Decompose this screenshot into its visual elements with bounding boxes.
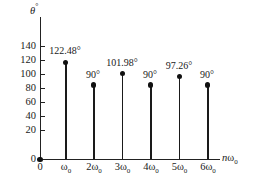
data-point-4 — [148, 82, 153, 87]
y-axis-title: θ° — [30, 2, 38, 16]
y-axis-title-degree: ° — [35, 2, 38, 11]
stem-4 — [150, 85, 152, 159]
stem-1 — [65, 62, 67, 158]
x-tick-label-5-sub: 0 — [184, 167, 188, 175]
y-tick-80 — [40, 88, 45, 89]
y-tick-40 — [40, 116, 45, 117]
x-tick-label-4-main: 4ω — [143, 161, 155, 172]
y-tick-label-40: 40 — [12, 111, 36, 122]
x-tick-label-5-main: 5ω — [172, 161, 184, 172]
data-label-1: 122.48° — [41, 46, 89, 56]
x-tick-label-0: 0 — [30, 161, 50, 172]
y-tick-60 — [40, 102, 45, 103]
data-label-3: 101.98° — [98, 58, 146, 68]
x-axis-title: nω0 — [222, 152, 238, 166]
x-tick-label-5: 5ω0 — [167, 161, 193, 177]
data-point-6 — [205, 82, 210, 87]
data-label-2: 90° — [75, 70, 111, 80]
y-tick-label-140: 140 — [12, 41, 36, 52]
stem-2 — [93, 85, 95, 159]
y-tick-label-120: 120 — [12, 55, 36, 66]
x-tick-label-2-sub: 0 — [98, 167, 102, 175]
x-tick-label-2: 2ω0 — [81, 161, 107, 177]
x-tick-label-3: 3ω0 — [110, 161, 136, 177]
data-point-3 — [120, 71, 125, 76]
x-tick-label-3-sub: 0 — [127, 167, 131, 175]
x-tick-label-3-main: 3ω — [115, 161, 127, 172]
y-tick-label-60: 60 — [12, 97, 36, 108]
data-label-6: 90° — [189, 70, 225, 80]
x-tick-label-4-sub: 0 — [155, 167, 159, 175]
data-label-4: 90° — [132, 70, 168, 80]
data-point-2 — [91, 82, 96, 87]
x-tick-label-6-main: 6ω — [200, 161, 212, 172]
x-tick-label-0-main: 0 — [37, 161, 42, 172]
data-point-1 — [63, 60, 68, 65]
stem-5 — [179, 76, 181, 158]
y-tick-100 — [40, 74, 45, 75]
y-tick-label-20: 20 — [12, 125, 36, 136]
y-tick-label-80: 80 — [12, 83, 36, 94]
x-tick-label-2-main: 2ω — [86, 161, 98, 172]
stem-6 — [207, 85, 209, 159]
y-tick-120 — [40, 60, 45, 61]
x-tick-label-6-sub: 0 — [212, 167, 216, 175]
x-tick-label-1-main: ω — [61, 161, 68, 172]
stem-3 — [122, 73, 124, 158]
x-axis-line — [40, 159, 220, 160]
y-tick-label-100: 100 — [12, 69, 36, 80]
x-tick-label-1: ω0 — [55, 161, 77, 177]
x-tick-label-1-sub: 0 — [68, 167, 72, 175]
y-tick-20 — [40, 130, 45, 131]
phase-spectrum-chart: θ° 140 120 100 80 60 40 20 0 0 ω0 2ω0 — [0, 0, 276, 191]
x-tick-label-6: 6ω0 — [195, 161, 221, 177]
data-point-5 — [177, 74, 182, 79]
x-tick-label-4: 4ω0 — [138, 161, 164, 177]
x-axis-title-sub: 0 — [234, 158, 238, 166]
